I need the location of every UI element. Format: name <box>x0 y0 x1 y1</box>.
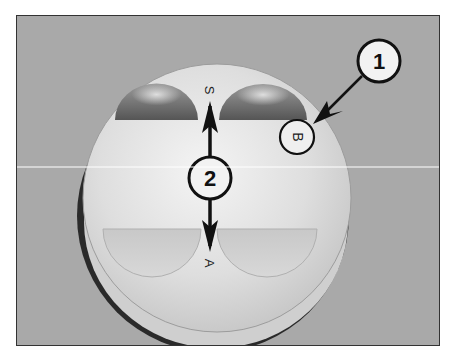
callout-1-label: 1 <box>373 49 385 74</box>
callout-1: 1 <box>358 40 400 82</box>
figure-frame: S A B 1 2 <box>16 15 440 346</box>
piston-illustration: S A B 1 2 <box>17 16 439 345</box>
stamp-s: S <box>202 86 217 95</box>
callout-2: 2 <box>189 157 231 199</box>
stamp-a: A <box>202 259 217 268</box>
stamp-b: B <box>290 132 306 141</box>
callout-2-label: 2 <box>204 166 216 191</box>
